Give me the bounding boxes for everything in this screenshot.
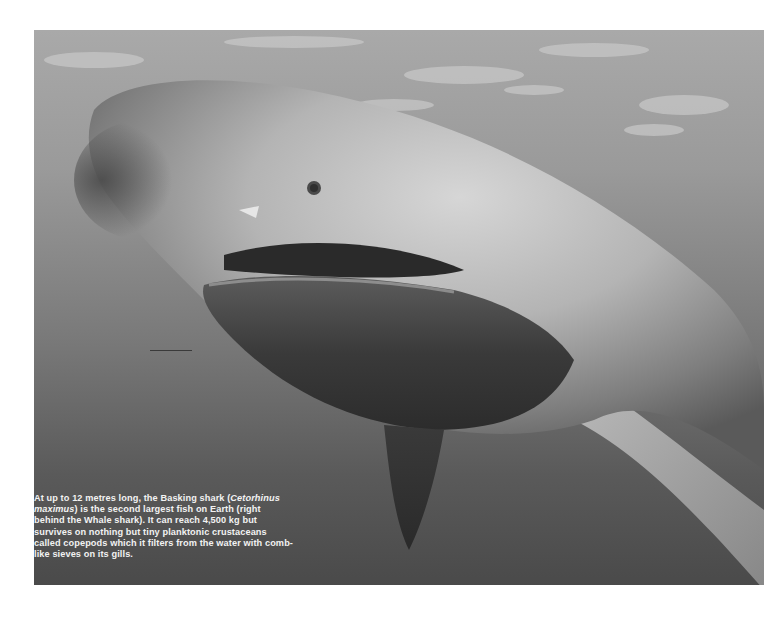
- photo-caption: At up to 12 metres long, the Basking sha…: [34, 493, 294, 560]
- shark-pectoral-fin: [384, 425, 444, 550]
- divider-line: [150, 350, 192, 351]
- caption-text-1: At up to 12 metres long, the Basking sha…: [34, 493, 230, 503]
